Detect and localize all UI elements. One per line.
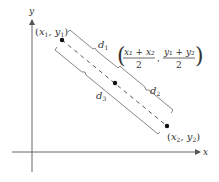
midpoint-x-numerator: x₁ + x₂ xyxy=(124,47,155,57)
d2-label: d2 xyxy=(150,85,160,97)
x-axis-label: x xyxy=(203,147,208,157)
d3-label: d3 xyxy=(96,90,106,102)
point-2 xyxy=(165,124,169,128)
d1-label: d1 xyxy=(98,39,108,51)
bracket-d1 xyxy=(68,30,120,68)
svg-text:): ) xyxy=(195,43,204,68)
midpoint-x-denominator: 2 xyxy=(136,60,142,70)
midpoint-diagram: y x (x1, y1) (x2, y2) d1 d2 d3 ( x₁ + x₂… xyxy=(0,0,219,182)
midpoint xyxy=(113,81,117,85)
point-2-label: (x2, y2) xyxy=(167,131,200,143)
point-1-label: (x1, y1) xyxy=(35,26,68,38)
midpoint-formula: ( x₁ + x₂ 2 , y₁ + y₂ 2 ) xyxy=(117,43,204,70)
y-axis-label: y xyxy=(28,6,35,16)
bracket-d2 xyxy=(120,66,173,113)
point-1 xyxy=(60,38,64,42)
midpoint-y-numerator: y₁ + y₂ xyxy=(163,47,195,57)
svg-text:,: , xyxy=(157,53,160,63)
midpoint-y-denominator: 2 xyxy=(176,60,182,70)
